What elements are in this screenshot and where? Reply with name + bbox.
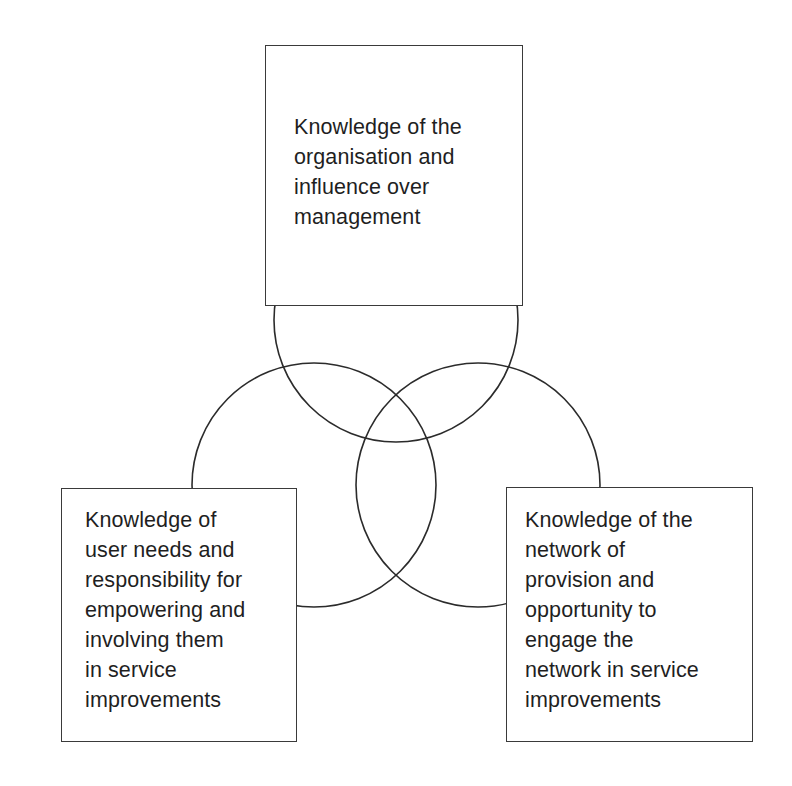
node-label-left: Knowledge of user needs and responsibili… bbox=[85, 505, 290, 715]
node-label-right: Knowledge of the network of provision an… bbox=[525, 505, 745, 715]
node-label-top: Knowledge of the organisation and influe… bbox=[294, 112, 509, 232]
figure-canvas: Knowledge of the organisation and influe… bbox=[0, 0, 792, 786]
figure-caption bbox=[28, 768, 768, 786]
